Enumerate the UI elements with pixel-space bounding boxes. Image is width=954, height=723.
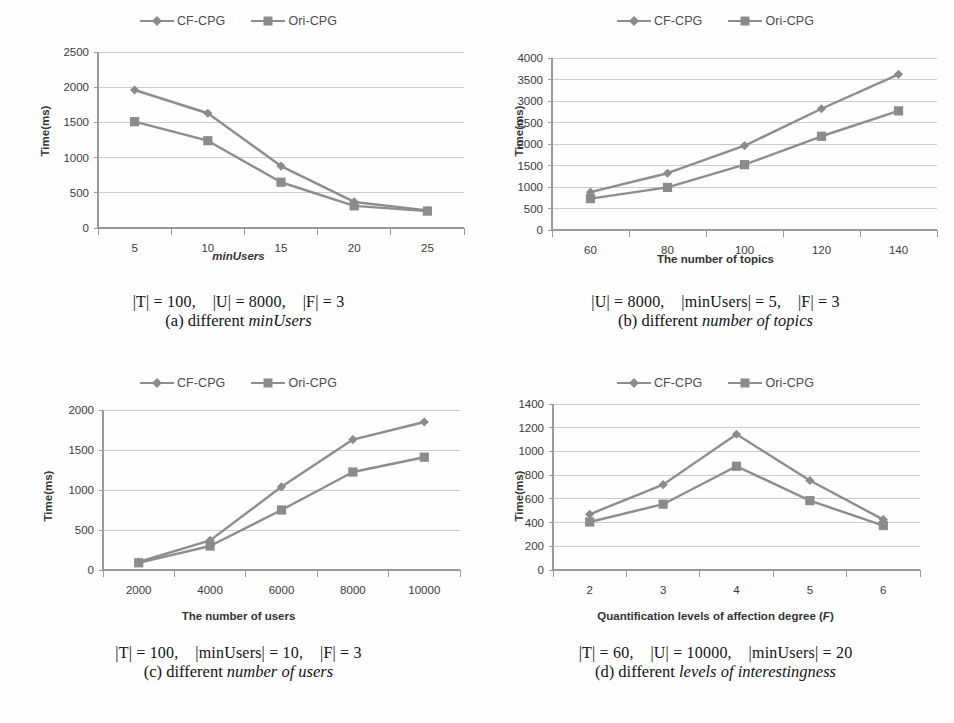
chart-panel-a: CF-CPG Ori-CPG 0500100015002000250051015… xyxy=(0,0,477,361)
caption-b-emphasis: number of topics xyxy=(702,311,813,330)
y-tick-label: 2000 xyxy=(68,404,94,416)
y-tick-label: 4000 xyxy=(517,52,543,64)
data-point-marker-square xyxy=(420,453,429,462)
caption-a-emphasis: minUsers xyxy=(248,311,311,330)
x-tick-label: 6000 xyxy=(269,584,295,596)
caption-c: |T| = 100, |minUsers| = 10, |F| = 3 (c) … xyxy=(0,644,477,682)
data-point-marker-square xyxy=(817,132,826,141)
caption-a: |T| = 100, |U| = 8000, |F| = 3 (a) diffe… xyxy=(0,293,477,331)
y-axis-label-b: Time(ms) xyxy=(513,81,525,181)
x-axis-label-a-text: minUsers xyxy=(212,250,264,262)
y-tick-label: 600 xyxy=(525,493,544,505)
y-tick-label: 1500 xyxy=(68,444,94,456)
x-tick-label: 3 xyxy=(660,584,666,596)
y-axis-label-d: Time(ms) xyxy=(513,446,525,546)
x-tick-label: 6 xyxy=(880,584,886,596)
data-point-marker-square xyxy=(276,178,285,187)
y-tick-label: 800 xyxy=(525,469,544,481)
y-axis-label-a: Time(ms) xyxy=(39,81,51,181)
series-line-cf-cpg xyxy=(590,434,884,519)
x-tick-label: 2 xyxy=(586,584,592,596)
caption-a-params: |T| = 100, |U| = 8000, |F| = 3 xyxy=(0,293,477,311)
x-tick-label: 2000 xyxy=(126,584,152,596)
y-tick-label: 1200 xyxy=(518,422,544,434)
data-point-marker-diamond xyxy=(894,70,903,79)
data-point-marker-square xyxy=(659,500,668,509)
x-axis-label-b: The number of topics xyxy=(477,253,954,265)
caption-d-title: (d) different levels of interestingness xyxy=(477,662,954,682)
data-point-marker-diamond xyxy=(740,141,749,150)
y-tick-label: 1400 xyxy=(518,398,544,410)
data-point-marker-square xyxy=(894,106,903,115)
y-axis-label-c: Time(ms) xyxy=(42,446,54,546)
data-point-marker-square xyxy=(348,467,357,476)
y-tick-label: 0 xyxy=(83,222,89,234)
data-point-marker-square xyxy=(740,160,749,169)
x-axis-label-d-main: Quantification levels of affection degre… xyxy=(597,610,823,622)
data-point-marker-square xyxy=(277,505,286,514)
figure-page: CF-CPG Ori-CPG 0500100015002000250051015… xyxy=(0,0,954,723)
data-point-marker-square xyxy=(663,183,672,192)
series-line-cf-cpg xyxy=(135,90,428,210)
x-axis-label-d-tail: ) xyxy=(830,610,834,622)
caption-d-params: |T| = 60, |U| = 10000, |minUsers| = 20 xyxy=(477,644,954,662)
x-axis-label-a: minUsers xyxy=(0,250,477,262)
series-line-ori-cpg xyxy=(591,111,899,199)
data-point-marker-square xyxy=(423,207,432,216)
caption-a-prefix: (a) different xyxy=(165,311,248,330)
data-point-marker-square xyxy=(350,201,359,210)
data-point-marker-diamond xyxy=(130,85,139,94)
y-tick-label: 500 xyxy=(524,203,543,215)
caption-c-emphasis: number of users xyxy=(227,662,333,681)
x-tick-label: 5 xyxy=(807,584,813,596)
series-line-cf-cpg xyxy=(591,74,899,192)
y-tick-label: 1500 xyxy=(63,116,89,128)
y-tick-label: 400 xyxy=(525,517,544,529)
caption-d: |T| = 60, |U| = 10000, |minUsers| = 20 (… xyxy=(477,644,954,682)
x-tick-label: 10000 xyxy=(408,584,440,596)
chart-panel-b: CF-CPG Ori-CPG 0500100015002000250030003… xyxy=(477,0,954,361)
y-tick-label: 0 xyxy=(537,224,543,236)
y-tick-label: 1000 xyxy=(63,152,89,164)
data-point-marker-square xyxy=(206,541,215,550)
x-tick-label: 4000 xyxy=(197,584,223,596)
y-tick-label: 500 xyxy=(75,524,94,536)
x-axis-label-c: The number of users xyxy=(0,610,477,622)
data-point-marker-diamond xyxy=(420,417,429,426)
y-tick-label: 200 xyxy=(525,540,544,552)
x-axis-label-b-text: The number of topics xyxy=(657,253,774,265)
caption-c-params: |T| = 100, |minUsers| = 10, |F| = 3 xyxy=(0,644,477,662)
data-point-marker-square xyxy=(805,496,814,505)
data-point-marker-square xyxy=(134,558,143,567)
y-tick-label: 0 xyxy=(538,564,544,576)
caption-b: |U| = 8000, |minUsers| = 5, |F| = 3 (b) … xyxy=(477,293,954,331)
caption-c-prefix: (c) different xyxy=(144,662,227,681)
y-tick-label: 500 xyxy=(70,187,89,199)
data-point-marker-square xyxy=(130,117,139,126)
caption-c-title: (c) different number of users xyxy=(0,662,477,682)
x-tick-label: 8000 xyxy=(340,584,366,596)
chart-panel-c: CF-CPG Ori-CPG 0500100015002000200040006… xyxy=(0,362,477,723)
caption-b-prefix: (b) different xyxy=(618,311,702,330)
y-tick-label: 1000 xyxy=(517,181,543,193)
y-tick-label: 2000 xyxy=(63,81,89,93)
data-point-marker-diamond xyxy=(663,169,672,178)
data-point-marker-square xyxy=(586,194,595,203)
x-axis-label-d: Quantification levels of affection degre… xyxy=(477,610,954,622)
data-point-marker-square xyxy=(879,521,888,530)
x-axis-label-c-text: The number of users xyxy=(182,610,296,622)
x-tick-label: 4 xyxy=(733,584,740,596)
y-tick-label: 0 xyxy=(88,564,94,576)
caption-a-title: (a) different minUsers xyxy=(0,311,477,331)
caption-d-prefix: (d) different xyxy=(595,662,679,681)
data-point-marker-diamond xyxy=(817,104,826,113)
y-tick-label: 1000 xyxy=(68,484,94,496)
data-point-marker-square xyxy=(203,136,212,145)
y-tick-label: 2500 xyxy=(63,46,89,58)
x-axis-label-d-italic: F xyxy=(823,610,830,622)
chart-panel-d: CF-CPG Ori-CPG 0200400600800100012001400… xyxy=(477,362,954,723)
caption-d-emphasis: levels of interestingness xyxy=(679,662,836,681)
data-point-marker-square xyxy=(585,517,594,526)
series-line-cf-cpg xyxy=(139,422,425,562)
caption-b-params: |U| = 8000, |minUsers| = 5, |F| = 3 xyxy=(477,293,954,311)
